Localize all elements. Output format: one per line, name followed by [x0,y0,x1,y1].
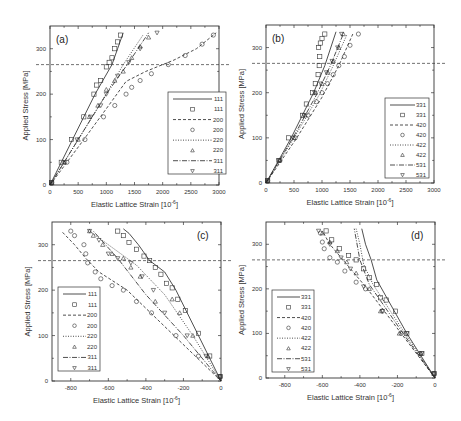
y-axis-label: Applied Stress [MPa] [237,69,246,139]
experimental-points-331 [266,32,327,183]
x-tick-label: 2000 [156,189,170,195]
circle-marker [348,43,352,47]
experimental-points-111 [116,229,223,379]
x-tick-label: -200 [391,382,404,388]
y-tick-label: 0 [43,182,47,188]
circle-marker [121,288,125,292]
legend-entry: 111 [88,302,98,308]
chart-panel-d: -800-600-400-20000100200300Elastic Latti… [237,222,447,402]
circle-marker [149,311,153,315]
square-marker [113,47,117,51]
circle-marker [110,284,114,288]
circle-marker [322,247,326,251]
square-marker [159,272,163,276]
y-tick-label: 200 [252,90,263,96]
triangle-up-marker [153,299,157,303]
triangle-down-marker [185,334,189,338]
x-axis-label: Elastic Lattice Strain [10-6] [91,199,178,209]
legend-entry: 200 [213,117,224,123]
y-tick-label: 200 [38,287,49,293]
legend: 331331420420422422531531 [272,290,314,372]
triangle-down-marker [97,238,101,242]
legend-entry: 200 [213,127,224,133]
legend-entry: 311 [213,168,223,174]
model-line-311 [93,231,221,381]
triangle-up-marker [170,297,174,301]
circle-marker [138,78,142,82]
square-marker [104,65,108,69]
y-axis-label: Applied Stress [MPa] [21,70,30,140]
experimental-points-531 [316,229,436,375]
y-tick-label: 300 [36,46,47,52]
y-tick-label: 0 [45,378,49,384]
x-axis-label: Elastic Lattice Strain [10-6] [93,395,180,405]
square-marker [317,64,321,68]
circle-marker [196,354,200,358]
circle-marker [320,240,324,244]
square-marker [134,247,138,251]
legend-entry: 420 [301,315,312,321]
triangle-down-marker [163,311,167,315]
square-marker [316,73,320,77]
x-tick-label: 3000 [427,187,441,193]
x-tick-label: -800 [279,382,292,388]
y-tick-label: 100 [252,135,263,141]
y-tick-label: 100 [38,333,49,339]
legend-entry: 111 [214,106,224,112]
legend-entry: 422 [416,142,427,148]
circle-marker [149,72,153,76]
triangle-up-marker [178,311,182,315]
experimental-points-420 [266,32,361,183]
x-tick-label: 2000 [371,187,385,193]
triangle-up-marker [345,260,349,264]
square-marker [320,36,324,40]
x-tick-label: 0 [264,187,268,193]
y-axis-label: Applied Stress [MPa] [237,265,246,335]
chart-panel-b: 0500100015002000250030000100200300Elasti… [237,25,446,207]
x-tick-label: -600 [316,382,329,388]
experimental-points-220 [87,229,222,378]
legend-entry: 220 [213,137,224,143]
y-tick-label: 300 [252,241,263,247]
legend-entry: 531 [301,366,312,372]
square-marker [318,41,322,45]
square-marker [107,60,111,64]
x-tick-label: 1500 [128,189,142,195]
x-tick-label: 500 [289,187,300,193]
x-tick-label: 2500 [184,189,198,195]
circle-marker [84,252,88,256]
legend-entry: 311 [213,158,223,164]
triangle-up-marker [91,234,95,238]
x-tick-label: -400 [140,385,153,391]
y-axis-label: Applied Stress [MPa] [23,266,32,336]
x-axis-label: Elastic Lattice Strain [10-6] [306,197,393,207]
legend-entry: 422 [416,152,427,158]
y-tick-label: 300 [38,242,49,248]
legend-entry: 220 [87,344,98,350]
legend-entry: 420 [416,122,427,128]
legend-entry: 220 [213,147,224,153]
figure-canvas: 0500100015002000250030000100200300Elasti… [0,0,461,421]
square-marker [324,229,328,233]
legend-entry: 531 [301,356,312,362]
x-tick-label: -400 [354,382,367,388]
circle-marker [354,280,358,284]
panel-label: (a) [56,34,68,45]
circle-marker [335,260,339,264]
experimental-points-111 [50,33,123,185]
x-tick-label: -600 [102,385,115,391]
x-tick-label: 1000 [315,187,329,193]
legend-entry: 420 [301,325,312,331]
legend-entry: 420 [416,132,427,138]
triangle-up-marker [354,271,358,275]
circle-marker [69,229,73,233]
experimental-points-531 [266,32,344,182]
x-tick-label: 3000 [212,189,226,195]
circle-marker [356,32,360,36]
triangle-up-marker [104,88,108,92]
circle-marker [134,299,138,303]
circle-marker [82,243,86,247]
experimental-points-311 [50,31,160,185]
circle-marker [72,234,76,238]
square-marker [116,229,120,233]
